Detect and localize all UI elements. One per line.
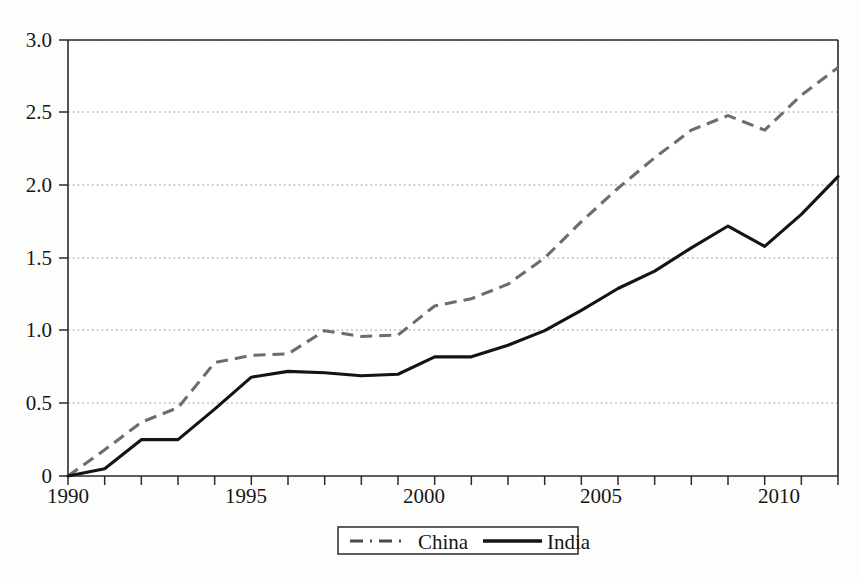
y-tick-labels: 3.0 2.5 2.0 1.5 1.0 0.5 0 [26, 28, 52, 488]
line-chart-svg: 3.0 2.5 2.0 1.5 1.0 0.5 0 1990 1995 2000… [0, 0, 861, 578]
y-tick-label-2-0: 2.0 [26, 173, 52, 197]
x-tick-marks [68, 476, 838, 485]
y-tick-label-2-5: 2.5 [26, 100, 52, 124]
y-tick-label-1-0: 1.0 [26, 318, 52, 342]
y-tick-label-1-5: 1.5 [26, 246, 52, 270]
x-tick-label-1990: 1990 [47, 484, 89, 508]
x-tick-label-1995: 1995 [225, 484, 267, 508]
y-tick-label-3-0: 3.0 [26, 28, 52, 52]
legend-label-china: China [418, 530, 469, 554]
legend-label-india: India [547, 530, 591, 554]
x-tick-label-2000: 2000 [403, 484, 445, 508]
x-tick-label-2005: 2005 [580, 484, 622, 508]
chart-legend: China India [338, 527, 591, 554]
y-tick-label-0-5: 0.5 [26, 391, 52, 415]
y-tick-marks [59, 40, 68, 476]
chart-figure: 3.0 2.5 2.0 1.5 1.0 0.5 0 1990 1995 2000… [0, 0, 861, 578]
x-tick-label-2010: 2010 [758, 484, 800, 508]
x-tick-labels: 1990 1995 2000 2005 2010 [47, 484, 800, 508]
